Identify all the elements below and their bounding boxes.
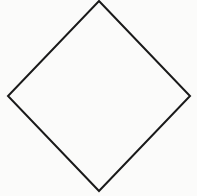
decision-diamond [8,1,190,191]
diamond-shape-svg [0,0,197,196]
diagram-canvas [0,0,197,196]
